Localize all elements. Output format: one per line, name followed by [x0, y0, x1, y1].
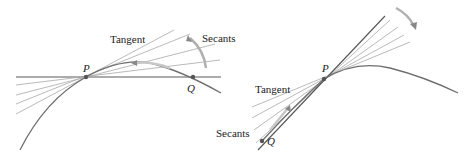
point-p	[84, 75, 88, 79]
point-q	[260, 139, 264, 143]
label-tangent: Tangent	[110, 33, 145, 45]
left-panel: P Q Tangent Secants	[16, 30, 236, 150]
right-panel: P Q Tangent Secants	[216, 8, 458, 150]
label-secants: Secants	[216, 127, 250, 139]
point-p	[322, 77, 326, 81]
rotation-arrow	[396, 8, 414, 26]
label-q: Q	[187, 82, 195, 94]
curve	[20, 62, 221, 150]
label-p: P	[82, 62, 90, 74]
curve-arrow	[135, 63, 170, 68]
secant-tangent-diagram: P Q Tangent Secants P Q Tangent Secants	[0, 0, 468, 160]
label-tangent: Tangent	[255, 83, 290, 95]
curve-arrow	[270, 108, 288, 130]
point-q	[191, 75, 195, 79]
label-q: Q	[267, 135, 275, 147]
label-p: P	[321, 62, 329, 74]
label-secants: Secants	[202, 32, 236, 44]
